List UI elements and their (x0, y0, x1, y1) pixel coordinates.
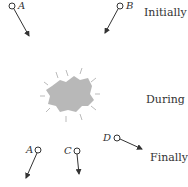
stage-finally: Finally (150, 151, 188, 164)
label-a-initial: A (18, 0, 25, 11)
label-a-final: A (26, 144, 33, 155)
particle-d-final (114, 135, 142, 149)
stage-during: During (146, 93, 185, 106)
label-b-initial: B (126, 0, 133, 11)
stage-initially: Initially (144, 6, 187, 19)
label-c-final: C (64, 145, 72, 156)
collision-blob (40, 68, 100, 122)
particle-c-final (74, 148, 80, 174)
particle-b-initial (105, 3, 123, 33)
label-d-final: D (103, 132, 111, 143)
